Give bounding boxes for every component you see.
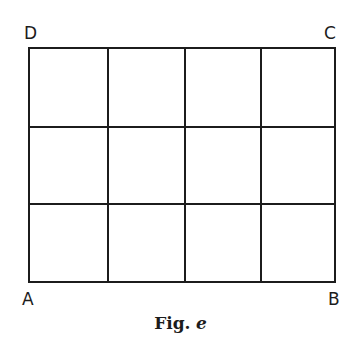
figure: D C A B Fig. e xyxy=(0,0,361,342)
caption-prefix: Fig. xyxy=(154,313,190,333)
grid-rectangle xyxy=(0,0,361,342)
figure-caption: Fig. e xyxy=(0,313,361,333)
caption-letter: e xyxy=(196,313,207,333)
corner-label-b: B xyxy=(328,291,340,308)
corner-label-d: D xyxy=(24,25,37,42)
corner-label-a: A xyxy=(22,291,34,308)
corner-label-c: C xyxy=(324,25,336,42)
outer-rectangle xyxy=(29,48,335,282)
